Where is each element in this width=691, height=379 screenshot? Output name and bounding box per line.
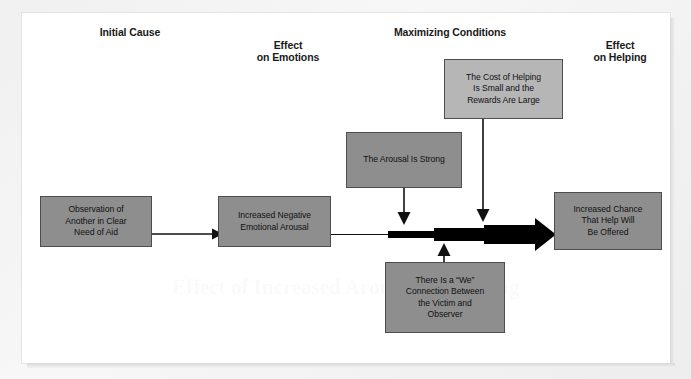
node-label: Increased Negative Emotional Arousal	[222, 210, 327, 233]
node-cost-of-helping[interactable]: The Cost of Helping Is Small and the Rew…	[444, 59, 563, 119]
figure-root: Effect of Increased Arousal on Helping I…	[0, 0, 691, 379]
diagram-panel: Effect of Increased Arousal on Helping I…	[22, 13, 670, 363]
node-increased-negative-arousal[interactable]: Increased Negative Emotional Arousal	[218, 196, 331, 247]
node-label: Observation of Another in Clear Need of …	[44, 204, 148, 238]
node-arousal-strong[interactable]: The Arousal Is Strong	[346, 132, 462, 188]
node-observation[interactable]: Observation of Another in Clear Need of …	[40, 196, 152, 247]
node-label: Increased Chance That Help Will Be Offer…	[558, 204, 658, 238]
node-label: The Cost of Helping Is Small and the Rew…	[448, 72, 559, 106]
connector-layer	[22, 13, 670, 363]
connector-observation-to-arousal	[151, 229, 223, 240]
panel-shadow-right	[670, 18, 675, 366]
connector-we-connection-up	[438, 243, 451, 262]
node-we-connection[interactable]: There Is a “We” Connection Between the V…	[385, 262, 505, 333]
connector-arousal-strong-down	[398, 188, 411, 225]
node-label: There Is a “We” Connection Between the V…	[389, 275, 501, 321]
connector-cost-of-helping-down	[477, 119, 490, 222]
panel-shadow-bottom	[27, 363, 675, 368]
node-increased-chance-help[interactable]: Increased Chance That Help Will Be Offer…	[554, 192, 662, 250]
node-label: The Arousal Is Strong	[350, 154, 458, 165]
